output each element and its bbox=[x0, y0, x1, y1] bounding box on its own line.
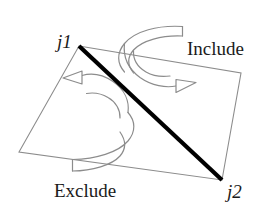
include-arrow-head bbox=[176, 80, 196, 93]
exclude-arrow-head bbox=[63, 71, 82, 84]
vertex-label-j1: j1 bbox=[57, 32, 72, 51]
include-arrow-inner-curve bbox=[133, 51, 170, 77]
include-arrow-outer-curve bbox=[124, 44, 176, 87]
region-label-exclude: Exclude bbox=[54, 181, 116, 200]
vertex-label-j2: j2 bbox=[227, 182, 242, 201]
exclude-arrow-upper-edge bbox=[73, 113, 134, 160]
exclude-arrow-inner-curve bbox=[87, 93, 121, 118]
region-label-include: Include bbox=[187, 39, 244, 58]
rotation-split-diagram: j1 j2 Include Exclude bbox=[0, 0, 272, 212]
include-arrow-lower-edge bbox=[129, 36, 183, 73]
